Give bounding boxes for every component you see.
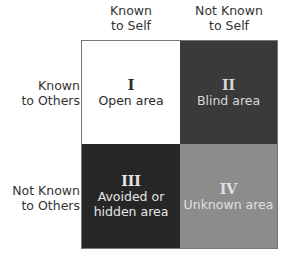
johari-window-grid: I Open area II Blind area III Avoided or… [81,40,278,249]
column-label-line1: Known [81,3,181,18]
row-label-not-known-to-others: Not Known to Others [12,183,80,213]
quadrant-numeral: II [222,77,235,93]
quadrant-label: Blind area [197,93,260,108]
column-label-line2: to Self [179,18,279,33]
column-label-line1: Not Known [179,3,279,18]
column-label-known-to-self: Known to Self [81,3,181,33]
row-label-line1: Known [21,78,80,93]
quadrant-numeral: I [128,77,135,93]
quadrant-open-area: I Open area [82,41,180,144]
row-label-line2: to Others [21,93,80,108]
row-label-known-to-others: Known to Others [21,78,80,108]
quadrant-blind-area: II Blind area [180,41,277,144]
quadrant-unknown-area: IV Unknown area [180,144,277,248]
column-label-not-known-to-self: Not Known to Self [179,3,279,33]
column-label-line2: to Self [81,18,181,33]
quadrant-numeral: IV [220,181,237,197]
quadrant-label: Open area [98,93,163,108]
row-label-line1: Not Known [12,183,80,198]
quadrant-hidden-area: III Avoided or hidden area [82,144,180,248]
quadrant-label: Avoided or [98,189,165,204]
row-label-line2: to Others [12,198,80,213]
quadrant-label-line2: hidden area [94,204,169,219]
quadrant-numeral: III [121,173,141,189]
quadrant-label: Unknown area [184,197,274,212]
